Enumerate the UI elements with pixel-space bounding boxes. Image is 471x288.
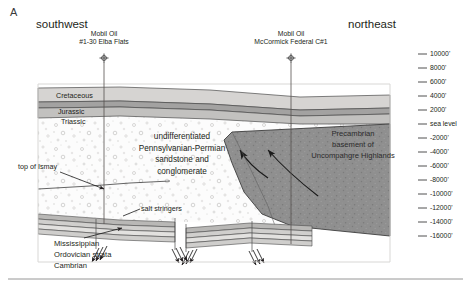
depth-label-11: -12000' bbox=[430, 204, 452, 211]
depth-label-8: -6000' bbox=[430, 162, 449, 169]
basal-strata-line-2: Cambrian bbox=[54, 261, 111, 272]
label-pennsylvanian-permian-unit: undifferentiatedPennsylvanian-Permiansan… bbox=[106, 131, 258, 178]
well-id: McCormick Federal C#1 bbox=[234, 38, 348, 46]
well-operator: Mobil Oil bbox=[58, 30, 150, 38]
depth-label-0: 10000' bbox=[430, 50, 450, 57]
depth-scale-ticks bbox=[418, 54, 427, 236]
precambrian-label-line-2: Uncompahgre Highlands bbox=[292, 150, 414, 161]
well-id: #1-30 Elba Flats bbox=[58, 38, 150, 46]
depth-label-1: 8000' bbox=[430, 64, 446, 71]
label-salt-stringers: salt stringers bbox=[141, 205, 182, 213]
depth-label-3: 4000' bbox=[430, 92, 446, 99]
label-precambrian-basement: Precambrianbasement ofUncompahgre Highla… bbox=[292, 128, 414, 161]
depth-label-5: sea level bbox=[430, 120, 457, 127]
depth-label-10: -10000' bbox=[430, 190, 452, 197]
unit-label-line-0: undifferentiated bbox=[106, 131, 258, 143]
depth-label-12: -14000' bbox=[430, 218, 452, 225]
well-symbol-icon bbox=[287, 54, 296, 63]
well-operator: Mobil Oil bbox=[234, 30, 348, 38]
panel-letter: A bbox=[10, 6, 17, 19]
depth-label-9: -8000' bbox=[430, 176, 449, 183]
label-top-of-ismay: top of Ismay bbox=[18, 163, 57, 171]
precambrian-label-line-1: basement of bbox=[292, 139, 414, 150]
depth-label-2: 6000' bbox=[430, 78, 446, 85]
depth-label-13: -16000' bbox=[430, 232, 452, 239]
strat-label-jurassic: Jurassic bbox=[58, 108, 84, 116]
well-label-mccormick: Mobil Oil McCormick Federal C#1 bbox=[234, 30, 348, 46]
depth-label-6: -2000' bbox=[430, 134, 449, 141]
basal-strata-line-1: Ordovician strata bbox=[54, 250, 111, 261]
unit-label-line-1: Pennsylvanian-Permian bbox=[106, 143, 258, 155]
precambrian-label-line-0: Precambrian bbox=[292, 128, 414, 139]
strat-label-cretaceous: Cretaceous bbox=[56, 92, 93, 100]
depth-label-4: 2000' bbox=[430, 106, 446, 113]
well-symbol-icon bbox=[100, 54, 109, 63]
well-label-elba-flats: Mobil Oil #1-30 Elba Flats bbox=[58, 30, 150, 46]
unit-label-line-2: sandstone and bbox=[106, 154, 258, 166]
basal-strata-line-0: Mississippian bbox=[54, 239, 111, 250]
depth-label-7: -4000' bbox=[430, 148, 449, 155]
unit-label-line-3: conglomerate bbox=[106, 166, 258, 178]
label-basal-strata: MississippianOrdovician strataCambrian bbox=[54, 239, 111, 271]
strat-label-triassic: Triassic bbox=[61, 118, 86, 126]
direction-label-northeast: northeast bbox=[348, 18, 396, 32]
